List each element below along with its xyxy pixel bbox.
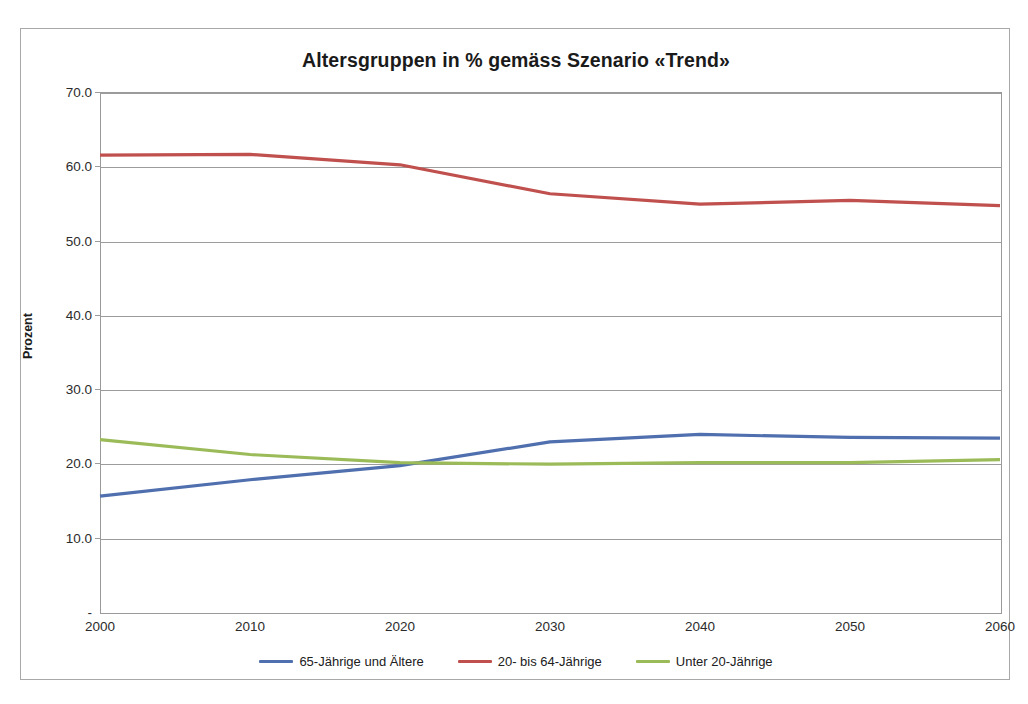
x-tick-label: 2000 (85, 619, 115, 634)
y-tick-label: 20.0 (32, 456, 92, 471)
series-line (100, 154, 1000, 205)
y-axis-tick-labels: -10.020.030.040.050.060.070.0 (30, 92, 92, 612)
legend-label: 65-Jährige und Ältere (299, 654, 423, 669)
x-axis-tick-labels: 2000201020202030204020502060 (100, 619, 1000, 645)
cut-off-caption-strip (0, 0, 1028, 14)
x-tick-label: 2010 (235, 619, 265, 634)
y-tick-label: 60.0 (32, 159, 92, 174)
y-tick-label: 10.0 (32, 530, 92, 545)
y-tick-label: 70.0 (32, 85, 92, 100)
legend-color-swatch (636, 660, 670, 664)
x-tick-label: 2030 (535, 619, 565, 634)
y-axis-title: Prozent (21, 313, 35, 359)
x-tick-label: 2040 (685, 619, 715, 634)
chart-title: Altersgruppen in % gemäss Szenario «Tren… (21, 49, 1011, 72)
legend-color-swatch (259, 660, 293, 664)
legend-item[interactable]: 20- bis 64-Jährige (458, 654, 602, 669)
legend-color-swatch (458, 660, 492, 664)
legend-item[interactable]: Unter 20-Jährige (636, 654, 773, 669)
legend-label: Unter 20-Jährige (676, 654, 773, 669)
y-tick-label: 30.0 (32, 382, 92, 397)
x-tick-label: 2020 (385, 619, 415, 634)
legend-label: 20- bis 64-Jährige (498, 654, 602, 669)
chart-legend: 65-Jährige und Ältere20- bis 64-JährigeU… (21, 654, 1011, 669)
y-tick-label: 40.0 (32, 307, 92, 322)
legend-item[interactable]: 65-Jährige und Ältere (259, 654, 423, 669)
chart-container: Altersgruppen in % gemäss Szenario «Tren… (20, 28, 1010, 680)
y-tick-label: - (32, 605, 92, 620)
x-tick-label: 2050 (835, 619, 865, 634)
series-lines (100, 92, 1000, 612)
y-tick-label: 50.0 (32, 233, 92, 248)
x-tick-label: 2060 (985, 619, 1015, 634)
